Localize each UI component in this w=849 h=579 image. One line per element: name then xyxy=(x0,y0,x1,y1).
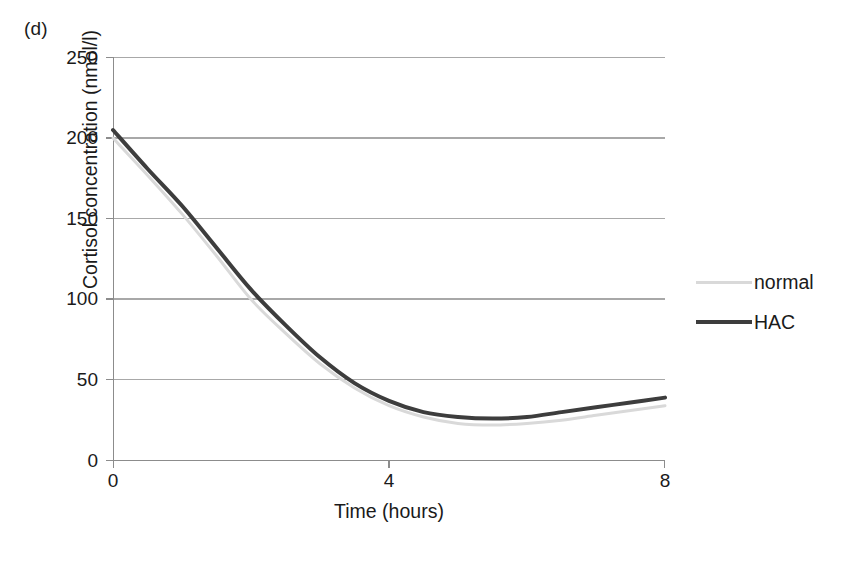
legend-swatch-normal-icon xyxy=(696,281,752,284)
legend-swatch-hac-icon xyxy=(696,320,752,324)
gridlines xyxy=(113,58,665,380)
legend-label-normal: normal xyxy=(752,271,814,294)
chart-legend: normal HAC xyxy=(696,262,846,342)
legend-item-normal[interactable]: normal xyxy=(696,262,846,302)
figure-panel: (d) Cortisol concentration (nmol/l) Time… xyxy=(0,0,849,579)
legend-item-hac[interactable]: HAC xyxy=(696,302,846,342)
tick-marks xyxy=(106,58,665,469)
series-line-normal xyxy=(113,138,665,425)
legend-label-hac: HAC xyxy=(752,311,795,334)
series-line-hac xyxy=(113,130,665,419)
